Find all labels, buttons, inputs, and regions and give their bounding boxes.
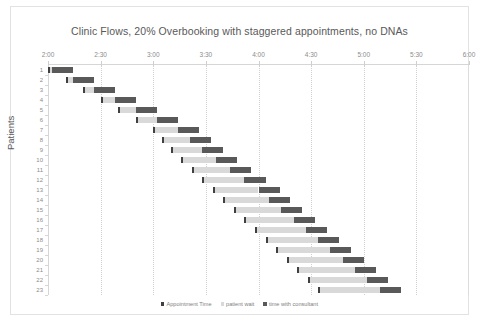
bar-row <box>48 167 469 173</box>
y-tick-mark <box>45 185 48 186</box>
y-tick-label: 12 <box>36 177 43 183</box>
bar-segment-time-with-consultant <box>294 217 315 223</box>
bar-segment-time-with-consultant <box>190 137 211 143</box>
y-tick-label: 9 <box>40 147 43 153</box>
bar-segment-patient-wait <box>164 137 190 143</box>
bar-segment-patient-wait <box>204 177 244 183</box>
legend-label: Appointment Time <box>166 301 211 307</box>
bar-segment-time-with-consultant <box>157 117 178 123</box>
y-tick-mark <box>45 125 48 126</box>
bar-segment-patient-wait <box>225 197 269 203</box>
bar-row <box>48 127 469 133</box>
bar-row <box>48 217 469 223</box>
bar-segment-patient-wait <box>120 107 136 113</box>
x-tick-label: 3:30 <box>200 51 213 58</box>
y-tick-mark <box>45 195 48 196</box>
x-tick-mark <box>416 61 417 65</box>
y-tick-label: 22 <box>36 277 43 283</box>
bar-segment-time-with-consultant <box>136 107 157 113</box>
y-tick-label: 7 <box>40 127 43 133</box>
bar-segment-time-with-consultant <box>52 67 73 73</box>
x-tick-label: 5:00 <box>357 51 370 58</box>
y-tick-mark <box>45 265 48 266</box>
legend-item[interactable]: Appointment Time <box>161 301 212 307</box>
x-tick-label: 6:00 <box>463 51 476 58</box>
x-tick-label: 4:30 <box>305 51 318 58</box>
bar-segment-patient-wait <box>183 157 216 163</box>
x-tick-mark <box>48 61 49 65</box>
y-tick-mark <box>45 225 48 226</box>
y-tick-label: 15 <box>36 207 43 213</box>
bar-segment-patient-wait <box>103 97 115 103</box>
bar-row <box>48 107 469 113</box>
bar-segment-patient-wait <box>173 147 203 153</box>
bar-row <box>48 97 469 103</box>
y-tick-mark <box>45 235 48 236</box>
y-tick-label: 10 <box>36 157 43 163</box>
y-axis-tick-labels: 1234567891011121314151617181920212223 <box>27 65 46 295</box>
y-tick-label: 6 <box>40 117 43 123</box>
y-tick-mark <box>45 155 48 156</box>
x-tick-mark <box>153 61 154 65</box>
bar-segment-time-with-consultant <box>367 277 388 283</box>
bar-segment-time-with-consultant <box>115 97 136 103</box>
y-tick-mark <box>45 215 48 216</box>
bar-row <box>48 67 469 73</box>
bar-segment-time-with-consultant <box>178 127 199 133</box>
bar-row <box>48 117 469 123</box>
bar-row <box>48 207 469 213</box>
bar-segment-time-with-consultant <box>306 227 327 233</box>
y-tick-mark <box>45 295 48 296</box>
legend-item[interactable]: time with consultant <box>263 301 318 307</box>
x-tick-label: 4:00 <box>252 51 265 58</box>
legend-item[interactable]: patient wait <box>221 301 255 307</box>
bar-segment-time-with-consultant <box>281 207 302 213</box>
y-tick-mark <box>45 135 48 136</box>
bar-row <box>48 77 469 83</box>
bar-row <box>48 247 469 253</box>
bar-segment-patient-wait <box>310 277 368 283</box>
y-tick-label: 1 <box>40 67 43 73</box>
x-tick-label: 2:30 <box>94 51 107 58</box>
y-tick-label: 16 <box>36 217 43 223</box>
bar-row <box>48 227 469 233</box>
bar-row <box>48 257 469 263</box>
x-tick-mark <box>469 61 470 65</box>
bar-segment-time-with-consultant <box>330 247 351 253</box>
y-tick-label: 8 <box>40 137 43 143</box>
bar-segment-time-with-consultant <box>73 77 94 83</box>
x-tick-mark <box>364 61 365 65</box>
bar-segment-patient-wait <box>268 237 319 243</box>
x-tick-mark <box>101 61 102 65</box>
y-tick-label: 23 <box>36 287 43 293</box>
y-tick-mark <box>45 115 48 116</box>
chart-frame: Clinic Flows, 20% Overbooking with stagg… <box>10 6 469 315</box>
y-tick-label: 11 <box>37 167 43 173</box>
bar-segment-time-with-consultant <box>202 147 223 153</box>
bar-segment-time-with-consultant <box>269 197 290 203</box>
y-tick-mark <box>45 205 48 206</box>
x-tick-mark <box>259 61 260 65</box>
y-tick-label: 3 <box>40 87 43 93</box>
y-tick-mark <box>45 85 48 86</box>
bar-row <box>48 197 469 203</box>
bar-row <box>48 137 469 143</box>
bar-segment-time-with-consultant <box>343 257 364 263</box>
bar-segment-patient-wait <box>85 87 94 93</box>
legend-label: patient wait <box>226 301 254 307</box>
bar-segment-patient-wait <box>278 247 330 253</box>
bar-segment-time-with-consultant <box>355 267 376 273</box>
chart-legend: Appointment Timepatient waittime with co… <box>11 301 468 307</box>
bar-segment-time-with-consultant <box>244 177 265 183</box>
legend-label: time with consultant <box>269 301 318 307</box>
legend-swatch-icon <box>221 302 225 306</box>
y-tick-mark <box>45 165 48 166</box>
bar-segment-time-with-consultant <box>94 87 115 93</box>
bar-row <box>48 267 469 273</box>
y-tick-mark <box>45 245 48 246</box>
bar-row <box>48 187 469 193</box>
bar-row <box>48 177 469 183</box>
bar-row <box>48 277 469 283</box>
x-tick-label: 3:00 <box>147 51 160 58</box>
x-tick-label: 5:30 <box>410 51 423 58</box>
